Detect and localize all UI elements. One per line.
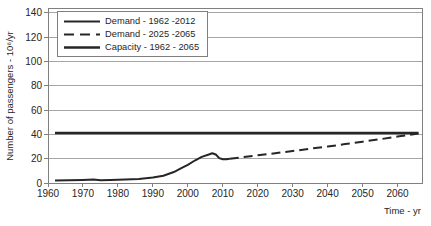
y-axis-title: Number of passengers - 10⁶/yr bbox=[4, 31, 15, 161]
legend-label: Demand - 2025 -2065 bbox=[105, 28, 195, 40]
y-tick-label: 80 bbox=[31, 80, 43, 91]
x-tick-label: 2010 bbox=[212, 188, 235, 199]
legend-line-dashed-icon bbox=[64, 32, 100, 37]
x-tick-label: 2020 bbox=[247, 188, 270, 199]
y-tick-label: 120 bbox=[25, 32, 42, 43]
legend-line-capacity-icon bbox=[64, 45, 100, 50]
y-tick-label: 100 bbox=[25, 56, 42, 67]
y-tick-label: 140 bbox=[25, 7, 42, 18]
y-tick-label: 40 bbox=[31, 129, 43, 140]
chart-figure: 0204060801001201401960197019801990200020… bbox=[0, 0, 431, 226]
x-tick-label: 2030 bbox=[282, 188, 305, 199]
legend: Demand - 1962 -2012 Demand - 2025 -2065 … bbox=[57, 11, 208, 57]
y-tick-label: 0 bbox=[36, 178, 42, 189]
x-tick-label: 2060 bbox=[386, 188, 409, 199]
x-tick-label: 2040 bbox=[317, 188, 340, 199]
series-line-1 bbox=[230, 133, 419, 158]
x-tick-label: 2000 bbox=[177, 188, 200, 199]
x-tick-label: 1970 bbox=[72, 188, 95, 199]
x-axis-title: Time - yr bbox=[384, 205, 421, 216]
x-tick-label: 1960 bbox=[37, 188, 60, 199]
x-tick-label: 1990 bbox=[142, 188, 165, 199]
legend-line-solid-icon bbox=[64, 19, 100, 24]
x-tick-label: 1980 bbox=[107, 188, 130, 199]
series-line-0 bbox=[55, 153, 230, 180]
legend-item: Demand - 2025 -2065 bbox=[64, 28, 199, 40]
legend-item: Capacity - 1962 - 2065 bbox=[64, 41, 199, 53]
legend-label: Demand - 1962 -2012 bbox=[105, 15, 195, 27]
y-tick-label: 20 bbox=[31, 153, 43, 164]
legend-item: Demand - 1962 -2012 bbox=[64, 15, 199, 27]
legend-label: Capacity - 1962 - 2065 bbox=[105, 41, 199, 53]
x-tick-label: 2050 bbox=[351, 188, 374, 199]
y-tick-label: 60 bbox=[31, 105, 43, 116]
